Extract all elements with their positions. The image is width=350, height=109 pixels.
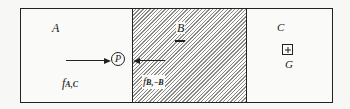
point-p-circle: P (111, 52, 125, 66)
arrow-left-icon (133, 58, 140, 64)
force-b-b-label: fB,−B (142, 75, 165, 89)
force-a-c-subscript: A,C (65, 80, 78, 89)
region-c (245, 9, 332, 102)
centroid-plus-box-icon (282, 44, 293, 55)
centroid-g-label: G (285, 58, 293, 70)
region-b-underline (175, 40, 185, 42)
force-b-b-arrow-shaft (139, 60, 165, 61)
force-a-c-label: fA,C (62, 76, 78, 91)
force-b-b-subscript: B,−B (146, 78, 164, 87)
region-b-label: B (176, 22, 185, 34)
arrow-right-icon (104, 58, 111, 64)
region-c-label: C (277, 21, 284, 33)
region-a-label: A (52, 21, 59, 36)
force-a-c-arrow-shaft (66, 60, 106, 61)
